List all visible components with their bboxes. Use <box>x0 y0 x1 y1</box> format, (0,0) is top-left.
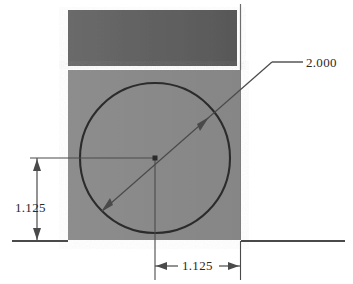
horizontal-dimension-value[interactable]: 1.125 <box>182 258 213 274</box>
horizontal-arrowhead-left <box>156 262 167 270</box>
vertical-arrowhead-bottom <box>33 228 41 240</box>
horizontal-arrowhead-right <box>228 262 239 270</box>
circle-center-mark <box>153 156 158 161</box>
drawing-vector-layer <box>0 0 353 284</box>
vertical-dimension-value[interactable]: 1.125 <box>15 200 46 216</box>
upper-face-band <box>68 10 237 66</box>
vertical-arrowhead-top <box>33 159 41 171</box>
cad-drawing-canvas: 2.000 1.125 1.125 <box>0 0 353 284</box>
rectangular-block <box>68 70 240 240</box>
diameter-dimension-value[interactable]: 2.000 <box>306 55 337 71</box>
